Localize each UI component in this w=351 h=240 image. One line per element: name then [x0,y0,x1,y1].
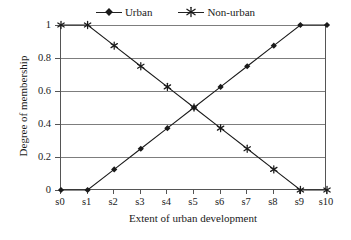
legend-item-urban[interactable]: Urban [96,7,153,18]
x-axis-tick-label: s7 [231,196,261,207]
data-point-asterisk-marker-icon [138,63,144,70]
x-axis-tick [140,190,141,194]
x-axis-tick-label: s5 [178,196,208,207]
series-layer [61,25,327,190]
x-axis-tick-label: s2 [98,196,128,207]
data-point-asterisk-marker-icon [244,145,250,152]
x-axis-tick-label: s1 [72,196,102,207]
plot-area [60,25,326,190]
fuzzy-membership-line-chart: Urban Non-urban 00.20.40.60.81 s0s1s2s3s… [0,0,351,240]
chart-legend: Urban Non-urban [0,4,351,20]
data-point-asterisk-marker-icon [271,166,277,173]
x-axis-tick-label: s9 [284,196,314,207]
data-point-diamond-marker-icon [324,22,330,28]
y-axis-title: Degree of membership [17,21,29,191]
x-axis-tick [273,190,274,194]
asterisk-glyph [186,7,197,18]
x-axis-tick-label: s0 [45,196,75,207]
legend-item-non-urban[interactable]: Non-urban [178,7,255,18]
data-point-asterisk-marker-icon [111,42,117,49]
asterisk-marker-icon [178,7,204,17]
x-axis-tick [246,190,247,194]
diamond-glyph [104,8,113,17]
x-axis-tick [166,190,167,194]
x-axis-tick-label: s8 [258,196,288,207]
legend-label-non-urban: Non-urban [207,7,255,18]
x-axis-tick-label: s6 [205,196,235,207]
x-axis-tick-label: s4 [151,196,181,207]
data-point-diamond-marker-icon [58,187,64,193]
x-axis-tick-label: s10 [311,196,341,207]
x-axis-title: Extent of urban development [60,212,326,224]
x-axis-tick [220,190,221,194]
x-axis-tick [113,190,114,194]
x-axis-tick [193,190,194,194]
legend-label-urban: Urban [125,7,153,18]
diamond-marker-icon [96,7,122,17]
series-non-urban [58,21,330,193]
data-point-asterisk-marker-icon [164,83,170,90]
data-point-asterisk-marker-icon [217,125,223,132]
x-axis-tick-label: s3 [125,196,155,207]
